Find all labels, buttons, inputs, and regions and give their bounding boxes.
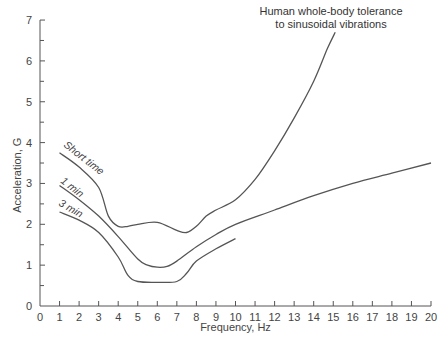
y-tick-label: 3 — [26, 177, 32, 189]
chart: 0123456789101112131415161718192001234567… — [0, 0, 447, 346]
chart-title-line-1: Human whole-body tolerance — [259, 5, 402, 17]
x-tick-label: 1 — [56, 311, 62, 323]
x-tick-label: 3 — [96, 311, 102, 323]
x-tick-label: 8 — [193, 311, 199, 323]
chart-title-line-2: to sinusoidal vibrations — [275, 18, 387, 30]
y-tick-label: 7 — [26, 14, 32, 26]
labels: Frequency, HzAcceleration, GHuman whole-… — [11, 5, 403, 333]
y-tick-label: 0 — [26, 300, 32, 312]
x-tick-label: 15 — [327, 311, 339, 323]
x-tick-label: 2 — [76, 311, 82, 323]
x-tick-label: 6 — [154, 311, 160, 323]
x-tick-label: 20 — [425, 311, 437, 323]
x-axis-title: Frequency, Hz — [200, 321, 271, 333]
x-tick-label: 4 — [115, 311, 121, 323]
x-tick-label: 0 — [37, 311, 43, 323]
y-tick-label: 4 — [26, 137, 32, 149]
x-tick-label: 14 — [308, 311, 320, 323]
x-tick-label: 18 — [386, 311, 398, 323]
y-tick-label: 1 — [26, 259, 32, 271]
axes: 0123456789101112131415161718192001234567 — [26, 14, 437, 323]
y-tick-label: 2 — [26, 218, 32, 230]
curves — [60, 32, 432, 282]
x-tick-label: 16 — [347, 311, 359, 323]
x-tick-label: 5 — [135, 311, 141, 323]
y-tick-label: 6 — [26, 55, 32, 67]
x-tick-label: 7 — [174, 311, 180, 323]
x-tick-label: 17 — [366, 311, 378, 323]
y-tick-label: 5 — [26, 96, 32, 108]
x-tick-label: 19 — [405, 311, 417, 323]
x-tick-label: 13 — [288, 311, 300, 323]
y-axis-title: Acceleration, G — [11, 138, 23, 213]
